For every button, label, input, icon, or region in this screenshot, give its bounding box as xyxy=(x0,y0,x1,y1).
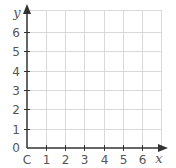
coordinate-grid: C 1 2 3 4 5 6 x 0 1 2 3 4 5 6 y xyxy=(0,0,176,168)
y-tick-label: 1 xyxy=(12,123,20,137)
x-axis xyxy=(27,144,168,152)
y-axis-label: y xyxy=(12,5,21,20)
x-tick-label: C xyxy=(23,153,31,167)
y-axis-arrow-icon xyxy=(23,4,31,14)
y-axis xyxy=(23,4,31,148)
x-tick-label: 1 xyxy=(43,153,51,167)
x-axis-label: x xyxy=(155,151,163,166)
y-tick-label: 5 xyxy=(12,45,20,59)
y-tick-label: 0 xyxy=(12,141,20,155)
x-tick-label: 4 xyxy=(101,153,109,167)
x-tick-label: 3 xyxy=(81,153,89,167)
y-tick-labels: 0 1 2 3 4 5 6 y xyxy=(12,5,21,155)
x-tick-labels: C 1 2 3 4 5 6 x xyxy=(23,151,164,167)
y-tick-label: 6 xyxy=(12,26,20,40)
y-tick-label: 3 xyxy=(12,84,20,98)
y-tick-label: 2 xyxy=(12,103,20,117)
y-tick-label: 4 xyxy=(12,65,20,79)
x-tick-label: 5 xyxy=(120,153,128,167)
grid-lines xyxy=(27,10,162,148)
x-tick-label: 2 xyxy=(62,153,70,167)
x-tick-label: 6 xyxy=(139,153,147,167)
